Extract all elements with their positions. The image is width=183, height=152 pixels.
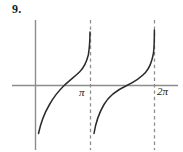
figure-container: 9. π 2π	[0, 0, 183, 152]
tangent-branch-first	[39, 32, 91, 134]
x-tick-label-two-pi: 2π	[157, 85, 168, 97]
tangent-branch-second	[94, 30, 154, 134]
tangent-graph-plot	[0, 0, 183, 152]
x-tick-label-pi: π	[79, 86, 85, 98]
